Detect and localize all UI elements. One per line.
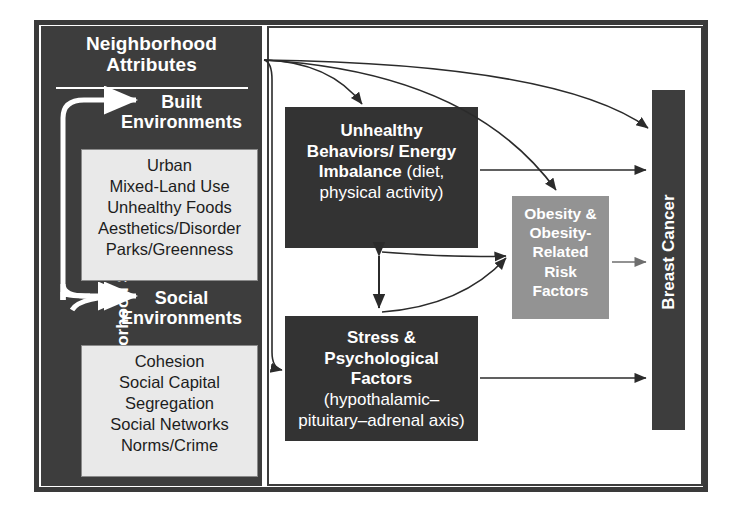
breast-cancer-label: Breast Cancer [659, 116, 679, 389]
diagram-canvas: Neighborhood SES Neighborhood Attributes… [0, 0, 742, 518]
stress-paren-part1: (hypothalamic– [324, 390, 439, 409]
list-item: Social Networks [82, 414, 257, 435]
built-environments-list: Urban Mixed-Land Use Unhealthy Foods Aes… [81, 149, 258, 281]
list-item: Mixed-Land Use [82, 176, 257, 197]
attributes-divider [56, 87, 248, 89]
list-item: Urban [82, 155, 257, 176]
behaviors-paren-part1: (diet, [402, 162, 445, 181]
obesity-line3: Related [512, 242, 609, 261]
behaviors-line3: Imbalance [319, 162, 402, 181]
social-title-line2: Environments [104, 308, 259, 328]
social-environments-title: Social Environments [104, 288, 259, 328]
list-item: Social Capital [82, 372, 257, 393]
social-title-line1: Social [104, 288, 259, 308]
obesity-risk-factors-box: Obesity & Obesity- Related Risk Factors [512, 196, 609, 319]
list-item: Cohesion [82, 351, 257, 372]
attributes-title-line1: Neighborhood [41, 33, 262, 54]
obesity-line1: Obesity & [512, 204, 609, 223]
unhealthy-behaviors-box: Unhealthy Behaviors/ Energy Imbalance (d… [285, 107, 478, 248]
neighborhood-attributes-title: Neighborhood Attributes [41, 33, 262, 76]
obesity-line4: Risk [512, 262, 609, 281]
built-title-line1: Built [104, 92, 259, 112]
behaviors-line2: Behaviors/ Energy [307, 142, 456, 161]
list-item: Segregation [82, 393, 257, 414]
attributes-title-line2: Attributes [41, 54, 262, 75]
obesity-line2: Obesity- [512, 223, 609, 242]
built-title-line2: Environments [104, 112, 259, 132]
list-item: Unhealthy Foods [82, 197, 257, 218]
list-item: Aesthetics/Disorder [82, 218, 257, 239]
stress-line1: Stress & [347, 328, 416, 347]
stress-psychological-box: Stress & Psychological Factors (hypothal… [285, 316, 478, 441]
breast-cancer-box: Breast Cancer [652, 90, 685, 430]
behaviors-line1: Unhealthy [340, 121, 422, 140]
stress-paren-part2: pituitary–adrenal axis) [298, 411, 464, 430]
list-item: Parks/Greenness [82, 239, 257, 260]
built-environments-title: Built Environments [104, 92, 259, 132]
behaviors-paren-part2: physical activity) [320, 183, 444, 202]
list-item: Norms/Crime [82, 435, 257, 456]
obesity-line5: Factors [512, 281, 609, 300]
stress-line3: Factors [351, 369, 412, 388]
stress-line2: Psychological [324, 349, 438, 368]
social-environments-list: Cohesion Social Capital Segregation Soci… [81, 345, 258, 477]
